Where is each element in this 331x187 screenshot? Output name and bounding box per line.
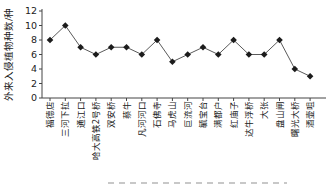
series-line — [50, 26, 310, 77]
y-axis-label: 外来入侵植物种数/种 — [3, 8, 14, 101]
data-point — [169, 58, 176, 65]
data-point — [108, 44, 115, 51]
data-point — [307, 73, 314, 80]
x-tick-label: 石佛寺 — [152, 101, 162, 128]
invasive-plant-species-line-chart: 024681012外来入侵植物种数/种福德店三河下拉通江口哈大高铁2号桥双安桥蔡… — [0, 0, 331, 187]
data-point — [292, 66, 299, 73]
x-tick-label: 蔡牛 — [122, 101, 132, 119]
y-tick-label: 4 — [31, 63, 37, 74]
data-point — [123, 44, 130, 51]
y-tick-label: 6 — [31, 49, 37, 60]
x-tick-label: 毓宝台 — [198, 101, 208, 128]
chart-canvas: 024681012外来入侵植物种数/种福德店三河下拉通江口哈大高铁2号桥双安桥蔡… — [0, 0, 331, 187]
x-tick-label: 大张 — [259, 101, 269, 119]
x-tick-label: 凡河河口 — [137, 101, 147, 137]
y-tick-label: 0 — [31, 92, 37, 103]
data-point — [200, 44, 207, 51]
x-tick-label: 巨流河 — [183, 101, 193, 128]
x-tick-label: 红庙子 — [229, 101, 239, 128]
x-tick-label: 达牛浮桥 — [244, 101, 254, 137]
x-tick-label: 酒壶咀 — [305, 101, 315, 128]
x-tick-label: 福德店 — [45, 101, 55, 128]
y-tick-label: 2 — [31, 78, 37, 89]
y-tick-label: 8 — [31, 34, 37, 45]
x-tick-label: 哈大高铁2号桥 — [91, 101, 101, 160]
x-tick-label: 马虎山 — [167, 101, 177, 128]
data-point — [184, 51, 191, 58]
data-point — [77, 44, 84, 51]
x-tick-label: 通江口 — [76, 101, 86, 128]
x-tick-label: 满都户 — [213, 101, 223, 128]
data-point — [93, 51, 100, 58]
y-tick-label: 12 — [25, 5, 37, 16]
x-tick-label: 盘山闸 — [275, 101, 285, 128]
x-tick-label: 曙光大桥 — [290, 101, 300, 137]
x-tick-label: 双安桥 — [106, 101, 116, 128]
y-tick-label: 10 — [25, 20, 37, 31]
x-tick-label: 三河下拉 — [60, 101, 70, 137]
